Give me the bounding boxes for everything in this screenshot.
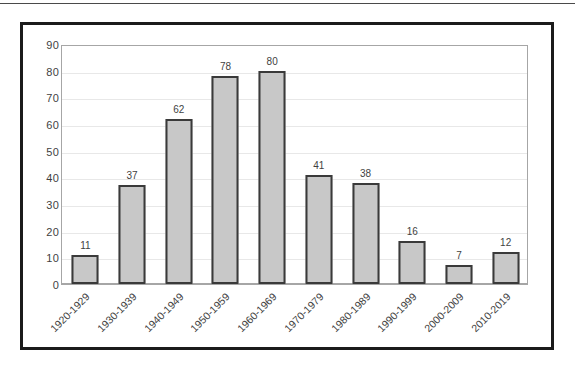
bar-value-label: 62	[173, 105, 184, 115]
bar-slot: 7	[436, 46, 483, 284]
bar-value-label: 37	[126, 171, 137, 181]
bar[interactable]	[212, 76, 239, 284]
bar-value-label: 80	[267, 57, 278, 67]
y-axis-tick-label: 20	[25, 226, 59, 237]
bar-slot: 38	[342, 46, 389, 284]
bar[interactable]	[445, 265, 472, 284]
y-axis-tick-label: 70	[25, 93, 59, 104]
y-axis-tick-label: 90	[25, 40, 59, 51]
x-axis: 1920-19291930-19391940-19491950-19591960…	[61, 287, 528, 347]
bar-value-label: 7	[456, 251, 462, 261]
bar[interactable]	[352, 183, 379, 284]
x-tick-slot: 1990-1999	[388, 287, 435, 347]
x-tick-slot: 1940-1949	[154, 287, 201, 347]
bar-slot: 80	[249, 46, 296, 284]
y-axis-tick-label: 10	[25, 253, 59, 264]
x-tick-slot: 1970-1979	[295, 287, 342, 347]
bar-slot: 37	[109, 46, 156, 284]
bar-value-label: 38	[360, 169, 371, 179]
bar[interactable]	[259, 71, 286, 284]
x-tick-slot: 1980-1989	[341, 287, 388, 347]
plot-area: 1137627880413816712	[61, 45, 528, 285]
bar-slot: 41	[296, 46, 343, 284]
x-tick-slot: 1960-1969	[248, 287, 295, 347]
bar[interactable]	[492, 252, 519, 284]
bar[interactable]	[399, 241, 426, 284]
x-tick-slot: 1920-1929	[61, 287, 108, 347]
y-axis-tick-label: 60	[25, 120, 59, 131]
bar[interactable]	[72, 255, 99, 284]
y-axis-tick-label: 30	[25, 200, 59, 211]
y-axis-tick-label: 0	[25, 280, 59, 291]
chart-figure-frame: 9080706050403020100 1137627880413816712 …	[20, 22, 554, 350]
bars-layer: 1137627880413816712	[62, 46, 527, 284]
y-axis-tick-label: 80	[25, 66, 59, 77]
bar[interactable]	[165, 119, 192, 284]
bar-value-label: 16	[407, 227, 418, 237]
bar-slot: 11	[62, 46, 109, 284]
bar-chart: 9080706050403020100 1137627880413816712 …	[23, 25, 551, 347]
bar[interactable]	[119, 185, 146, 284]
bar-value-label: 41	[313, 161, 324, 171]
x-tick-slot: 2000-2009	[435, 287, 482, 347]
bar-value-label: 12	[500, 238, 511, 248]
bar-slot: 12	[482, 46, 529, 284]
bar[interactable]	[305, 175, 332, 284]
x-tick-slot: 1930-1939	[108, 287, 155, 347]
y-axis-tick-label: 40	[25, 173, 59, 184]
bar-value-label: 11	[80, 241, 90, 251]
bar-value-label: 78	[220, 62, 231, 72]
x-axis-tick-label: 1920-1929	[49, 291, 92, 334]
bar-slot: 16	[389, 46, 436, 284]
x-tick-slot: 2010-2019	[481, 287, 528, 347]
y-axis-tick-label: 50	[25, 146, 59, 157]
x-tick-slot: 1950-1959	[201, 287, 248, 347]
bar-slot: 62	[155, 46, 202, 284]
page-top-rule	[0, 3, 575, 4]
bar-slot: 78	[202, 46, 249, 284]
y-axis: 9080706050403020100	[23, 45, 59, 285]
